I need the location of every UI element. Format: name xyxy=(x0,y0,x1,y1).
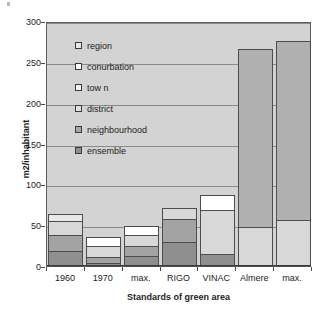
bar-max- xyxy=(276,41,311,266)
y-tick-label: 300 xyxy=(26,17,41,27)
legend-item-neighbourhood: neighbourhood xyxy=(75,119,225,140)
y-tick-label: 100 xyxy=(26,180,41,190)
bar-max- xyxy=(124,226,159,266)
x-tick-label: 1970 xyxy=(93,273,113,283)
x-axis-labels: 19601970max.RIGOVINACAlmeremax. xyxy=(46,273,311,287)
legend-item-district: district xyxy=(75,98,225,119)
x-tick-label: max. xyxy=(131,273,151,283)
bar-segment xyxy=(200,210,235,255)
y-axis-ticks: 050100150200250300 xyxy=(0,0,44,319)
bar-segment xyxy=(238,49,273,228)
legend-swatch-icon xyxy=(75,147,82,154)
y-tick-mark xyxy=(41,63,45,64)
plot-area: regionconurbationtow ndistrictneighbourh… xyxy=(46,22,311,267)
x-tick-label: max. xyxy=(282,273,302,283)
x-tick-mark xyxy=(84,267,85,271)
x-tick-label: VINAC xyxy=(203,273,231,283)
x-tick-mark xyxy=(197,267,198,271)
legend-swatch-icon xyxy=(75,126,82,133)
legend-label: ensemble xyxy=(87,146,126,156)
x-tick-label: 1960 xyxy=(55,273,75,283)
bar-segment xyxy=(238,227,273,267)
legend-label: neighbourhood xyxy=(87,125,147,135)
y-tick-mark xyxy=(41,22,45,23)
zero-baseline xyxy=(47,265,310,266)
bar-segment xyxy=(162,242,197,267)
bar-vinac xyxy=(200,195,235,266)
y-tick-mark xyxy=(41,267,45,268)
legend-label: district xyxy=(87,104,113,114)
bar-segment xyxy=(48,235,83,251)
bar-segment xyxy=(276,41,311,221)
legend-swatch-icon xyxy=(75,42,82,49)
legend-label: region xyxy=(87,41,112,51)
bar-almere xyxy=(238,49,273,266)
y-tick-label: 150 xyxy=(26,140,41,150)
bar-rigo xyxy=(162,208,197,266)
y-tick-label: 200 xyxy=(26,99,41,109)
x-tick-mark xyxy=(311,267,312,271)
legend-swatch-icon xyxy=(75,105,82,112)
x-tick-mark xyxy=(122,267,123,271)
y-tick-mark xyxy=(41,145,45,146)
stacked-bar-chart: m2/inhabitant 050100150200250300 regionc… xyxy=(0,0,324,319)
y-tick-label: 250 xyxy=(26,58,41,68)
legend-label: tow n xyxy=(87,83,109,93)
x-tick-mark xyxy=(46,267,47,271)
x-tick-mark xyxy=(160,267,161,271)
legend-label: conurbation xyxy=(87,62,134,72)
bar-segment xyxy=(276,220,311,267)
bar-segment xyxy=(162,219,197,243)
legend-item-tow-n: tow n xyxy=(75,77,225,98)
bar-segment xyxy=(48,221,83,237)
x-tick-label: RIGO xyxy=(167,273,190,283)
y-tick-mark xyxy=(41,185,45,186)
x-tick-mark xyxy=(273,267,274,271)
legend-item-region: region xyxy=(75,35,225,56)
legend-item-conurbation: conurbation xyxy=(75,56,225,77)
bar-1960 xyxy=(48,214,83,266)
x-axis-title: Standards of green area xyxy=(46,292,311,302)
y-tick-mark xyxy=(41,104,45,105)
x-tick-label: Almere xyxy=(240,273,269,283)
legend-swatch-icon xyxy=(75,63,82,70)
legend: regionconurbationtow ndistrictneighbourh… xyxy=(75,35,225,161)
legend-item-ensemble: ensemble xyxy=(75,140,225,161)
legend-swatch-icon xyxy=(75,84,82,91)
bar-segment xyxy=(200,195,235,211)
y-tick-mark xyxy=(41,226,45,227)
x-tick-mark xyxy=(235,267,236,271)
y-tick-label: 50 xyxy=(31,221,41,231)
bar-1970 xyxy=(86,237,121,266)
